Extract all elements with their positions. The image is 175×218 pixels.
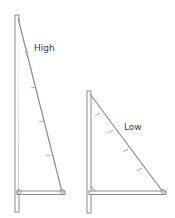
low-boom: [89, 191, 166, 195]
low-aspect-sail: [87, 91, 166, 213]
high-label: High: [34, 43, 55, 53]
sail-diagram-svg: [0, 0, 175, 218]
high-boom: [17, 191, 65, 195]
low-tack-corner: [91, 186, 96, 191]
low-leech: [90, 94, 163, 192]
sail-diagram: High Low: [0, 0, 175, 218]
low-label: Low: [124, 122, 142, 132]
